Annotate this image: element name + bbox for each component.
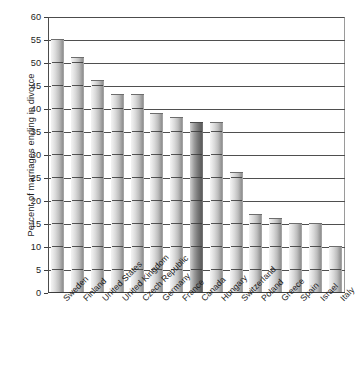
- bar-gridline-stub: [52, 108, 63, 109]
- bar-gridline-stub: [310, 246, 321, 247]
- bar-gridline-stub: [171, 154, 182, 155]
- y-axis-tick-label: 10: [31, 242, 41, 252]
- bar-gridline-stub: [191, 223, 202, 224]
- divorce-rate-bar-chart: Percent of marriages ending in divorce 0…: [0, 0, 357, 366]
- bar-gridline-stub: [151, 177, 162, 178]
- bar-gridline-stub: [92, 269, 103, 270]
- bar: [71, 57, 84, 293]
- bar-gridline-stub: [231, 177, 242, 178]
- bar-gridline-stub: [191, 246, 202, 247]
- y-axis-tick-label: 55: [31, 35, 41, 45]
- bar-gridline-stub: [171, 200, 182, 201]
- bar-gridline-stub: [211, 246, 222, 247]
- bar-gridline-stub: [250, 269, 261, 270]
- bar-gridline-stub: [72, 177, 83, 178]
- bar-gridline-stub: [290, 269, 301, 270]
- bar: [111, 94, 124, 293]
- bar-series: [48, 17, 345, 293]
- bar-gridline-stub: [132, 131, 143, 132]
- y-axis-tick-label: 40: [31, 104, 41, 114]
- bar-gridline-stub: [310, 269, 321, 270]
- bar-gridline-stub: [112, 154, 123, 155]
- bar-gridline-stub: [211, 154, 222, 155]
- y-axis-tick-label: 20: [31, 196, 41, 206]
- bar-gridline-stub: [52, 177, 63, 178]
- bar-gridline-stub: [290, 246, 301, 247]
- bar: [210, 122, 223, 293]
- bar-gridline-stub: [151, 200, 162, 201]
- bar: [91, 80, 104, 293]
- bar-gridline-stub: [231, 269, 242, 270]
- bar-gridline-stub: [92, 108, 103, 109]
- bar-gridline-stub: [211, 131, 222, 132]
- bar-gridline-stub: [112, 200, 123, 201]
- bar-gridline-stub: [112, 108, 123, 109]
- bar-gridline-stub: [191, 154, 202, 155]
- bar-gridline-stub: [151, 154, 162, 155]
- bar-gridline-stub: [52, 131, 63, 132]
- bar-gridline-stub: [151, 131, 162, 132]
- bar-gridline-stub: [132, 200, 143, 201]
- bar-gridline-stub: [92, 154, 103, 155]
- bar-gridline-stub: [211, 269, 222, 270]
- bar-gridline-stub: [211, 223, 222, 224]
- bar-gridline-stub: [211, 200, 222, 201]
- bar-gridline-stub: [52, 200, 63, 201]
- bar-gridline-stub: [52, 269, 63, 270]
- bar-gridline-stub: [72, 200, 83, 201]
- plot-area: 051015202530354045505560: [48, 17, 345, 293]
- y-axis-tick-label: 60: [31, 12, 41, 22]
- bar-gridline-stub: [231, 223, 242, 224]
- bar-gridline-stub: [330, 269, 341, 270]
- bar-gridline-stub: [72, 246, 83, 247]
- bar-gridline-stub: [270, 246, 281, 247]
- bar-gridline-stub: [72, 85, 83, 86]
- bar-gridline-stub: [92, 131, 103, 132]
- bar-gridline-stub: [270, 223, 281, 224]
- bar-gridline-stub: [52, 85, 63, 86]
- y-axis-tick-label: 35: [31, 127, 41, 137]
- bar-gridline-stub: [191, 200, 202, 201]
- bar-gridline-stub: [132, 177, 143, 178]
- bar-gridline-stub: [191, 131, 202, 132]
- bar-gridline-stub: [52, 246, 63, 247]
- bar-gridline-stub: [132, 246, 143, 247]
- x-axis-labels: SwedenFinlandUnited StatesUnited Kingdom…: [48, 296, 345, 366]
- bar-gridline-stub: [171, 131, 182, 132]
- bar-gridline-stub: [250, 223, 261, 224]
- bar-gridline-stub: [250, 246, 261, 247]
- y-axis-tick-label: 50: [31, 58, 41, 68]
- y-axis-tick-label: 0: [36, 288, 41, 298]
- bar-gridline-stub: [112, 131, 123, 132]
- bar-gridline-stub: [92, 200, 103, 201]
- bar-gridline-stub: [92, 223, 103, 224]
- bar-gridline-stub: [191, 269, 202, 270]
- bar-gridline-stub: [72, 154, 83, 155]
- bar-gridline-stub: [52, 62, 63, 63]
- bar-gridline-stub: [72, 62, 83, 63]
- bar-gridline-stub: [151, 223, 162, 224]
- bar-gridline-stub: [72, 131, 83, 132]
- bar-gridline-stub: [231, 200, 242, 201]
- bar-gridline-stub: [112, 246, 123, 247]
- bar-gridline-stub: [132, 154, 143, 155]
- bar-gridline-stub: [72, 269, 83, 270]
- bar-gridline-stub: [92, 85, 103, 86]
- y-axis-tick-label: 25: [31, 173, 41, 183]
- bar-gridline-stub: [112, 177, 123, 178]
- bar-gridline-stub: [72, 108, 83, 109]
- y-axis-tick-label: 30: [31, 150, 41, 160]
- y-axis-tick-label: 5: [36, 265, 41, 275]
- bar-gridline-stub: [112, 223, 123, 224]
- bar-gridline-stub: [92, 177, 103, 178]
- bar: [51, 39, 64, 293]
- bar-gridline-stub: [112, 269, 123, 270]
- bar-gridline-stub: [171, 177, 182, 178]
- bar-gridline-stub: [132, 108, 143, 109]
- bar-gridline-stub: [171, 223, 182, 224]
- y-axis-tick: [44, 293, 48, 294]
- bar-gridline-stub: [72, 223, 83, 224]
- bar-gridline-stub: [191, 177, 202, 178]
- bar-gridline-stub: [92, 246, 103, 247]
- bar-gridline-stub: [171, 246, 182, 247]
